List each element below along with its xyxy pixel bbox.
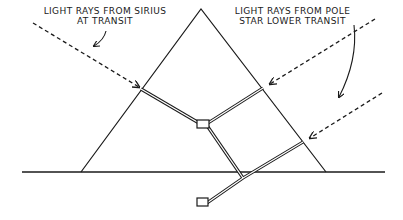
- sirius-pointer-arrow: [94, 31, 106, 46]
- pole-star-label-line2: STAR LOWER TRANSIT: [230, 16, 355, 26]
- pole-star-label-line1: LIGHT RAYS FROM POLE: [230, 6, 355, 16]
- passages: [141, 88, 303, 203]
- sirius-label-line1: LIGHT RAYS FROM SIRIUS: [40, 6, 170, 16]
- sirius-label-line2: AT TRANSIT: [40, 16, 170, 26]
- pyramid-diagram: [0, 0, 403, 220]
- subterranean-chamber: [197, 198, 208, 206]
- sirius-label: LIGHT RAYS FROM SIRIUS AT TRANSIT: [40, 6, 170, 26]
- pyramid-outline: [81, 9, 326, 172]
- kings-chamber: [197, 120, 209, 128]
- pole-star-pointer-arrow: [339, 25, 355, 97]
- pole-star-label: LIGHT RAYS FROM POLE STAR LOWER TRANSIT: [230, 6, 355, 26]
